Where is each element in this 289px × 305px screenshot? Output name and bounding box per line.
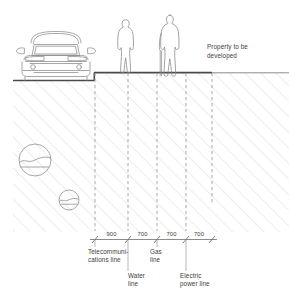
car-foglamp-right: [77, 65, 82, 70]
car-headlight-right: [68, 56, 86, 60]
car-foglamp-left: [31, 65, 36, 70]
car-headlight-left: [26, 56, 44, 60]
person-standing-silhouette: [118, 20, 134, 73]
car-mirror-left: [17, 48, 25, 54]
person-standing: [118, 20, 134, 73]
utility-label-electric: Electric power line: [180, 272, 210, 289]
dimension-value-900: 900: [107, 231, 117, 237]
property-note: Property to be developed: [207, 43, 248, 60]
ground-mass: [13, 73, 289, 232]
car-roof-inner: [34, 34, 79, 44]
person-with-cane-silhouette: [161, 15, 179, 76]
car-windshield-inner: [35, 46, 77, 54]
car-mirror-right: [88, 48, 96, 54]
car-front-elevation: [17, 32, 96, 81]
person-with-cane: [159, 15, 179, 76]
utility-label-water: Water line: [128, 272, 145, 289]
dimension-value-700-b: 700: [167, 231, 177, 237]
dimension-chain: [90, 236, 217, 243]
dimension-value-700-c: 700: [194, 231, 204, 237]
utility-label-telecom: Telecommuni- cations line: [88, 248, 128, 265]
dimension-value-700-a: 700: [138, 231, 148, 237]
utility-label-gas: Gas line: [150, 248, 162, 265]
soil-hatch-fill: [13, 73, 289, 232]
car-body-upper: [24, 55, 88, 60]
